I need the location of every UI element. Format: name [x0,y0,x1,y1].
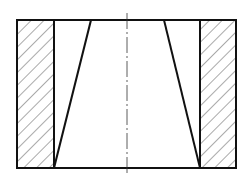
right-taper-line [164,20,200,168]
left-hatched-section [17,20,54,168]
left-taper-line [54,20,91,168]
sectional-drawing [0,0,248,182]
right-hatched-section [200,20,236,168]
